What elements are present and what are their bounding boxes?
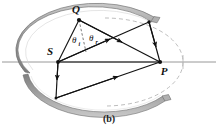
ellipse-reflection-diagram: Q S P θ i θ r (b)	[0, 0, 218, 127]
label-angle-incident-symbol: θ	[72, 35, 77, 45]
point-marker-p	[158, 60, 162, 64]
point-marker-lower-left	[55, 97, 58, 100]
point-marker-s	[56, 60, 60, 64]
label-angle-reflected-symbol: θ	[89, 33, 94, 43]
label-point-s: S	[47, 45, 53, 57]
point-marker-q	[77, 18, 81, 22]
label-point-p: P	[161, 65, 168, 77]
figure-background	[0, 0, 218, 127]
point-marker-upper-right	[147, 20, 150, 23]
figure-caption: (b)	[103, 113, 115, 125]
figure-container: Q S P θ i θ r (b)	[0, 0, 218, 127]
label-point-q: Q	[72, 3, 80, 15]
